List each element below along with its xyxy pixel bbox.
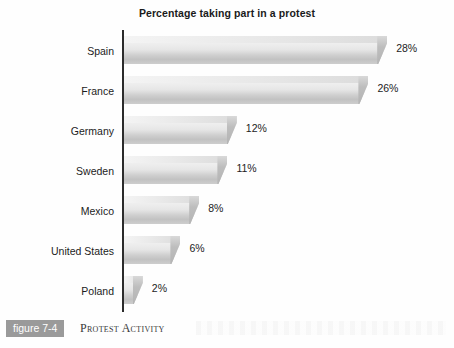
category-label: United States: [0, 245, 114, 257]
bar-end-cap: [227, 116, 237, 144]
bar-top-face: [124, 196, 199, 203]
bar-value-label: 26%: [377, 82, 398, 94]
bar: [124, 196, 199, 224]
scan-artifact: [196, 321, 446, 335]
bar-front-face: [124, 43, 387, 64]
category-label: Germany: [0, 125, 114, 137]
figure-caption: figure 7-4 Protest Activity: [0, 320, 454, 342]
bar: [124, 236, 180, 264]
category-label: Poland: [0, 285, 114, 297]
category-label: Sweden: [0, 165, 114, 177]
bar-front-face: [124, 203, 199, 224]
figure-container: Percentage taking part in a protest Spai…: [0, 0, 454, 348]
bar-end-cap: [170, 236, 180, 264]
bar-end-cap: [133, 276, 143, 304]
bar-value-label: 11%: [236, 162, 256, 174]
bar-row: Spain28%: [0, 33, 454, 73]
bar-value-label: 8%: [208, 202, 223, 214]
bar: [124, 116, 237, 144]
category-label: Spain: [0, 45, 114, 57]
bar-value-label: 28%: [396, 42, 417, 54]
bar-front-face: [124, 83, 368, 104]
bar-value-label: 2%: [152, 282, 167, 294]
bar-value-label: 6%: [189, 242, 204, 254]
bar: [124, 276, 143, 304]
bar-row: Sweden11%: [0, 153, 454, 193]
bar-row: Mexico8%: [0, 193, 454, 233]
chart-title: Percentage taking part in a protest: [0, 7, 454, 19]
bar-end-cap: [377, 36, 387, 64]
bar-row: United States6%: [0, 233, 454, 273]
bar-end-cap: [217, 156, 227, 184]
category-label: France: [0, 85, 114, 97]
figure-caption-text: Protest Activity: [80, 320, 165, 337]
bar-top-face: [124, 76, 368, 83]
bar-front-face: [124, 123, 237, 144]
bar: [124, 76, 368, 104]
bar-end-cap: [358, 76, 368, 104]
bar-top-face: [124, 36, 387, 43]
bar-front-face: [124, 163, 227, 184]
bar-row: France26%: [0, 73, 454, 113]
bar: [124, 156, 227, 184]
bar-top-face: [124, 156, 227, 163]
plot-area: Spain28%France26%Germany12%Sweden11%Mexi…: [0, 28, 454, 312]
bar-end-cap: [189, 196, 199, 224]
bar-row: Poland2%: [0, 273, 454, 313]
bar: [124, 36, 387, 64]
figure-number-tag: figure 7-4: [6, 320, 64, 337]
bar-top-face: [124, 116, 237, 123]
category-label: Mexico: [0, 205, 114, 217]
bar-value-label: 12%: [246, 122, 267, 134]
bar-row: Germany12%: [0, 113, 454, 153]
